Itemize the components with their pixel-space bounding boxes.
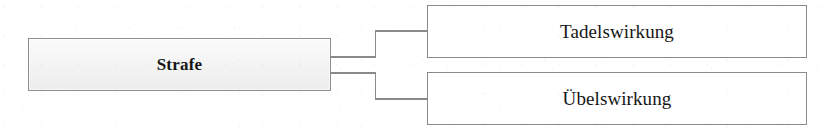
connector-strafe-to-tadelswirkung [331,31,427,57]
node-uebelswirkung[interactable]: Übelswirkung [427,72,807,125]
node-tadelswirkung-label: Tadelswirkung [560,22,674,42]
connector-strafe-to-uebelswirkung [331,73,427,99]
diagram-canvas: Strafe Tadelswirkung Übelswirkung [0,0,832,132]
node-strafe[interactable]: Strafe [28,38,331,91]
node-tadelswirkung[interactable]: Tadelswirkung [427,5,807,58]
node-uebelswirkung-label: Übelswirkung [563,89,672,109]
node-strafe-label: Strafe [157,56,203,74]
